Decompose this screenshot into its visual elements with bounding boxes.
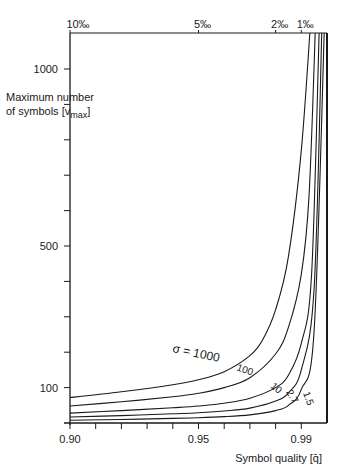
x-tick-label: 0.95: [188, 433, 209, 445]
curve-sigma-1000: [70, 27, 310, 398]
y-axis-label: Maximum number of symbols [vmax]: [6, 90, 94, 122]
axes: 0.900.950.99100500100010‰5‰2‰1‰: [34, 18, 327, 445]
top-axis-label: 2‰: [271, 18, 288, 30]
y-axis-label-line2: of symbols [vmax]: [6, 104, 94, 122]
y-axis-label-line1: Maximum number: [6, 90, 94, 104]
curve-label: σ = 1000: [171, 341, 221, 365]
chart-canvas: 0.900.950.99100500100010‰5‰2‰1‰ σ = 1000…: [0, 0, 348, 475]
x-tick-label: 0.99: [291, 433, 312, 445]
curve-label: 100: [235, 362, 255, 378]
y-tick-label: 100: [40, 382, 58, 394]
x-axis-label: Symbol quality [q̄]: [235, 452, 322, 464]
top-axis-label: 10‰: [66, 18, 89, 30]
curves: [70, 27, 324, 421]
top-axis-label: 1‰: [297, 18, 314, 30]
y-tick-label: 1000: [34, 63, 58, 75]
curve-sigma-1.5: [70, 27, 324, 421]
top-axis-label: 5‰: [194, 18, 211, 30]
curve-labels: σ = 1000100102.71.5: [171, 341, 316, 407]
curve-label: 2.7: [284, 388, 301, 406]
y-tick-label: 500: [40, 240, 58, 252]
curve-label: 10: [269, 380, 285, 396]
x-tick-label: 0.90: [59, 433, 80, 445]
curve-label: 1.5: [301, 390, 316, 407]
